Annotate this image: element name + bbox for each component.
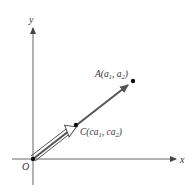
point-a bbox=[131, 79, 135, 83]
point-origin bbox=[31, 157, 35, 161]
y-axis-label: y bbox=[28, 14, 34, 25]
point-c bbox=[74, 123, 78, 127]
x-axis-label: x bbox=[179, 154, 185, 165]
point-c-label: C(ca1, ca2) bbox=[80, 127, 122, 138]
point-a-label: A(a1, a2) bbox=[94, 69, 128, 80]
origin-label: O bbox=[22, 161, 29, 172]
vector-diagram: y x O A(a1, a2) C(ca1, ca2) bbox=[0, 0, 194, 195]
vector-oa bbox=[33, 85, 128, 159]
